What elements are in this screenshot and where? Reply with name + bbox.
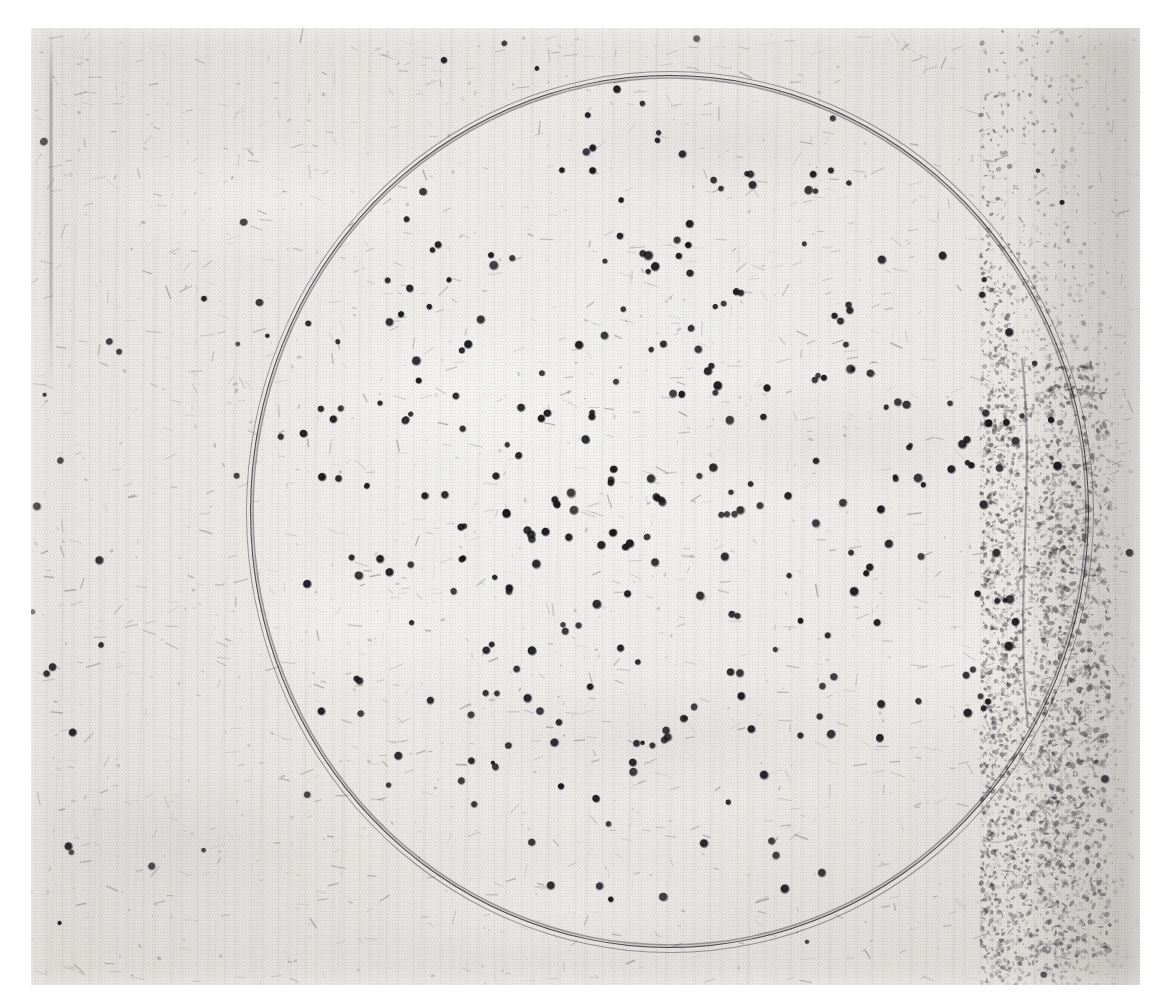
cut-off-caption-strip bbox=[0, 0, 1163, 9]
page-canvas bbox=[0, 0, 1163, 1008]
halftone-screen-overlay bbox=[31, 28, 1140, 985]
photograph bbox=[31, 28, 1140, 985]
